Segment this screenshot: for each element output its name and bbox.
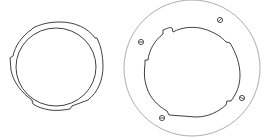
left-ring xyxy=(10,22,103,110)
figure-canvas xyxy=(0,0,271,137)
right-plate xyxy=(124,0,260,136)
screw-hole-top-left xyxy=(138,39,143,44)
left-ring-outer-edge xyxy=(10,22,103,110)
right-plate-inner-opening xyxy=(144,27,240,117)
screw-hole-top-right xyxy=(217,17,222,22)
screw-hole-bottom-left xyxy=(159,115,164,120)
diagram xyxy=(0,0,271,137)
left-ring-inner-circle xyxy=(16,28,96,106)
screw-hole-bottom-right xyxy=(239,95,244,100)
